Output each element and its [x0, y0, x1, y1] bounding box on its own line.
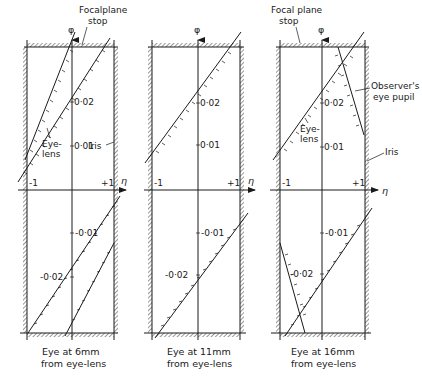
leader-focal-stop [82, 27, 87, 45]
value-label-0.02: 0·02 [200, 98, 220, 108]
annotation-observer-line1: Observer's [371, 81, 420, 91]
annotation-eye-lens-line1: Eye- [300, 124, 320, 134]
annotation-focal-stop-line1: Focal plane [271, 5, 323, 15]
annotation-focal-stop-line2: stop [88, 16, 108, 26]
observer-pupil-line-lower [280, 243, 305, 333]
leader-eye-lens [305, 118, 308, 123]
caption-line2: from eye-lens [291, 358, 356, 369]
hatching-upper [24, 50, 105, 174]
leader-iris [106, 142, 114, 145]
value-label-0.02: 0·02 [74, 97, 94, 107]
eye-lens-line-upper [145, 32, 241, 163]
caption-line2: from eye-lens [167, 358, 232, 369]
annotation-eye-lens-line2: lens [42, 149, 61, 159]
annotation-eye-lens-line2: lens [300, 134, 319, 144]
tick-plus-one: +1 [101, 178, 114, 188]
eta-label: η [121, 175, 127, 186]
eye-lens-line-lower-shallow [28, 196, 120, 333]
tick-plus-one: +1 [352, 178, 365, 188]
focal-stop-bottom [152, 333, 240, 337]
value-label-neg-0.01: -0·01 [201, 228, 224, 238]
eta-label: η [382, 185, 388, 196]
vignetting-diagram: φ η -1 +1 0·02 0·01 -0·01 -0·02 Fo [0, 0, 422, 382]
annotation-observer-line2: eye pupil [373, 92, 414, 102]
tick-plus-one: +1 [227, 178, 240, 188]
phi-label: φ [68, 24, 74, 35]
value-label-0.01: 0·01 [200, 140, 220, 150]
annotation-focal-stop-line2: stop [279, 16, 299, 26]
annotation-iris: Iris [385, 147, 399, 157]
observer-pupil-line-upper [338, 47, 364, 135]
focal-stop-bottom [27, 333, 114, 337]
value-label-0.01: 0·01 [324, 142, 344, 152]
hatching-observer-lower [285, 254, 306, 315]
caption-line1: Eye at 16mm [291, 346, 355, 357]
eta-label: η [248, 175, 254, 186]
value-label-neg-0.02: -0·02 [165, 270, 188, 280]
panel-11mm: φ η -1 +1 0·02 0·01 -0·01 -0·02 Eye at 1… [144, 24, 255, 369]
phi-label: φ [194, 24, 200, 35]
leader-iris [367, 153, 384, 161]
tick-minus-one: -1 [154, 178, 163, 188]
caption-line2: from eye-lens [41, 358, 106, 369]
panel-16mm: φ η -1 +1 0·02 0·01 -0·01 -0·02 [270, 5, 420, 369]
focal-stop-top [152, 43, 240, 47]
leader-focal-stop [296, 27, 300, 43]
caption-line1: Eye at 6mm [42, 346, 100, 357]
panel-6mm: φ η -1 +1 0·02 0·01 -0·01 -0·02 Fo [18, 5, 128, 369]
value-label-neg-0.02: -0·02 [40, 272, 63, 282]
caption-line1: Eye at 11mm [167, 346, 231, 357]
annotation-eye-lens-line1: Eye- [42, 139, 62, 149]
phi-label: φ [318, 24, 324, 35]
tick-minus-one: -1 [29, 178, 38, 188]
value-label-0.02: 0·02 [324, 98, 344, 108]
eye-lens-line-upper [273, 32, 364, 160]
annotation-focal-stop-line1: Focalplane [79, 5, 128, 15]
value-label-neg-0.01: -0·01 [325, 228, 348, 238]
tick-minus-one: -1 [282, 178, 291, 188]
annotation-iris: Iris [88, 141, 102, 151]
